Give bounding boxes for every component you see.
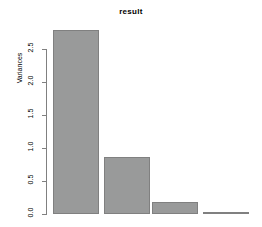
bar bbox=[203, 212, 249, 214]
bar bbox=[152, 202, 198, 214]
y-axis-tick-label: 2.5 bbox=[27, 36, 34, 60]
y-axis-tick-label: 2.0 bbox=[27, 69, 34, 93]
y-axis-tick bbox=[42, 181, 46, 182]
y-axis-tick bbox=[42, 214, 46, 215]
chart-title: result bbox=[0, 7, 262, 16]
y-axis-tick-label: 1.0 bbox=[27, 135, 34, 159]
scree-plot-canvas: result Variances 0.00.51.01.52.02.5 bbox=[0, 0, 262, 227]
bar bbox=[53, 30, 99, 214]
y-axis-tick bbox=[42, 82, 46, 83]
bar bbox=[104, 157, 150, 214]
y-axis-label: Variances bbox=[16, 28, 23, 108]
y-axis-tick-label: 0.0 bbox=[27, 201, 34, 225]
y-axis-tick bbox=[42, 115, 46, 116]
y-axis-tick-label: 0.5 bbox=[27, 168, 34, 192]
y-axis-tick-label: 1.5 bbox=[27, 102, 34, 126]
y-axis-line bbox=[46, 49, 47, 215]
y-axis-tick bbox=[42, 49, 46, 50]
y-axis-tick bbox=[42, 148, 46, 149]
